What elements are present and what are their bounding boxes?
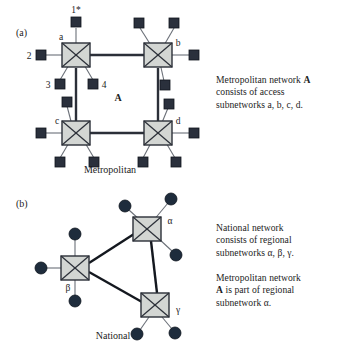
annotation-national-line1: National network <box>216 222 284 233</box>
switch-label-d: d <box>176 116 181 126</box>
switch-label-alpha: α <box>168 216 173 226</box>
annotation-mr-line3: subnetwork α. <box>216 297 271 308</box>
panel-label-b: (b) <box>16 198 28 209</box>
leaf-node-square <box>164 99 174 109</box>
annotation-metro-line3: subnetworks a, b, c, d. <box>216 99 303 110</box>
leaf-node-square <box>62 97 72 107</box>
switch-node-a <box>62 43 90 67</box>
leaf-node-circle <box>35 262 47 274</box>
access-label-1: 1* <box>71 5 81 15</box>
panel-label-a: (a) <box>16 27 27 38</box>
caption-national: National <box>58 330 168 341</box>
switch-label-gamma: γ <box>175 305 180 315</box>
annotation-metro-line2: consists of access <box>216 86 285 97</box>
backbone-link-alpha-gamma <box>151 241 157 293</box>
leaf-node-square <box>36 128 46 138</box>
network-label-A: A <box>114 92 122 103</box>
switch-label-b: b <box>176 38 181 48</box>
annotation-mr-line2-bold: A <box>216 284 223 295</box>
annotation-national-line3: subnetworks α, β, γ. <box>216 247 294 258</box>
switch-label-beta: β <box>66 283 71 293</box>
switch-node-c <box>62 121 90 145</box>
access-link-gamma-2 <box>162 317 172 329</box>
backbone-link-alpha-beta <box>89 234 134 263</box>
leaf-node-square <box>88 79 98 89</box>
leaf-node-square <box>189 128 199 138</box>
access-label-2: 2 <box>27 51 32 61</box>
switch-node-gamma <box>141 293 169 317</box>
switch-node-alpha <box>133 217 161 241</box>
annotation-metro-line1-bold: A <box>303 74 310 85</box>
access-label-3: 3 <box>46 80 51 90</box>
annotation-metro-line1-prefix: Metropolitan network <box>216 74 303 85</box>
switch-node-d <box>144 121 172 145</box>
access-link-gamma-1 <box>140 317 149 330</box>
leaf-node-circle <box>170 249 182 261</box>
annotation-metropolitan-regional: Metropolitan network A is part of region… <box>216 272 334 309</box>
caption-metropolitan: Metropolitan <box>55 164 165 175</box>
panel-b-leaf-nodes <box>35 193 182 340</box>
figure-container: a b c d 1* 2 3 4 A <box>0 0 337 357</box>
panel-a-group: a b c d 1* 2 3 4 A <box>27 5 199 167</box>
access-label-4: 4 <box>102 80 107 90</box>
annotation-national: National network consists of regional su… <box>216 222 334 259</box>
leaf-node-square <box>160 80 170 90</box>
leaf-node-square <box>71 17 81 27</box>
backbone-link-beta-gamma <box>89 272 142 302</box>
leaf-node-square <box>189 50 199 60</box>
leaf-node-square <box>36 50 46 60</box>
switch-node-beta <box>61 256 89 280</box>
leaf-node-square <box>134 18 144 28</box>
leaf-node-circle <box>169 327 181 339</box>
annotation-metropolitan: Metropolitan network A consists of acces… <box>216 74 334 111</box>
annotation-mr-line2-rest: is part of regional <box>223 284 294 295</box>
leaf-node-circle <box>69 295 81 307</box>
switch-node-b <box>144 43 172 67</box>
leaf-node-circle <box>165 193 177 205</box>
leaf-node-square <box>169 18 179 28</box>
leaf-node-square <box>55 79 65 89</box>
annotation-mr-line1: Metropolitan network <box>216 272 301 283</box>
leaf-node-circle <box>69 228 81 240</box>
leaf-node-circle <box>119 200 131 212</box>
leaf-node-square <box>171 157 181 167</box>
switch-label-a: a <box>59 32 64 42</box>
annotation-national-line2: consists of regional <box>216 234 292 245</box>
panel-b-backbone-links <box>89 234 157 302</box>
switch-label-c: c <box>55 116 59 126</box>
panel-b-group: α β γ <box>35 193 182 340</box>
